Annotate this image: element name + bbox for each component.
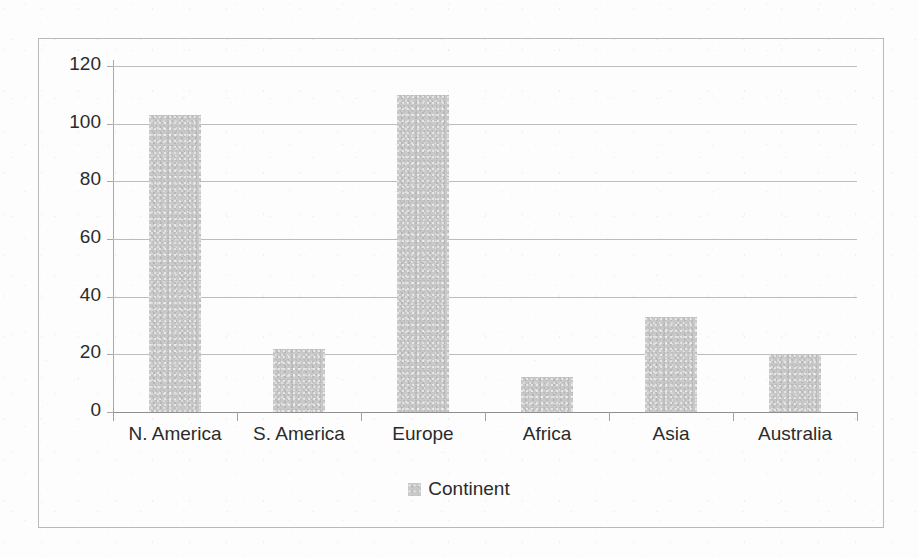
y-tick-label-60: 60 <box>15 226 101 248</box>
bar-africa[interactable] <box>521 377 573 412</box>
legend-swatch-continent <box>408 483 421 496</box>
bar-s-america[interactable] <box>273 349 325 412</box>
category-tick-4 <box>733 412 734 421</box>
legend-label-continent: Continent <box>428 478 509 500</box>
plot-area <box>113 66 857 412</box>
category-label-europe: Europe <box>361 423 485 445</box>
y-tick-label-100: 100 <box>15 111 101 133</box>
category-label-australia: Australia <box>733 423 857 445</box>
y-tick-label-120: 120 <box>15 53 101 75</box>
y-tick-label-80: 80 <box>15 168 101 190</box>
category-tick-3 <box>609 412 610 421</box>
category-label-n-america: N. America <box>113 423 237 445</box>
y-tick-label-40: 40 <box>15 284 101 306</box>
category-tick-5 <box>857 412 858 421</box>
category-label-s-america: S. America <box>237 423 361 445</box>
bar-asia[interactable] <box>645 317 697 412</box>
category-tick-origin <box>113 408 114 421</box>
category-label-asia: Asia <box>609 423 733 445</box>
chart-legend: Continent <box>0 478 918 500</box>
category-tick-2 <box>485 412 486 421</box>
y-tick-label-20: 20 <box>15 341 101 363</box>
bar-n-america[interactable] <box>149 115 201 412</box>
y-tick-label-0: 0 <box>15 399 101 421</box>
category-tick-0 <box>237 412 238 421</box>
category-label-africa: Africa <box>485 423 609 445</box>
bar-europe[interactable] <box>397 95 449 412</box>
category-tick-1 <box>361 412 362 421</box>
bar-australia[interactable] <box>769 354 821 412</box>
